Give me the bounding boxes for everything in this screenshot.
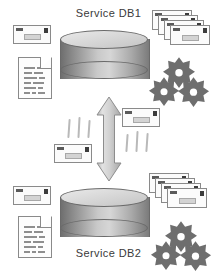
envelope-icon [13,186,51,205]
document-text-line [24,236,37,238]
envelope-bar [182,35,199,41]
document-fold-edge [40,216,52,228]
document-text-line [24,241,31,243]
envelope-icon [167,188,207,208]
diagram-canvas: Service DB1 Service DB2 [0,0,217,277]
document-text-line [38,87,43,89]
envelope-tab-left [16,189,23,192]
envelope-bar [65,153,82,159]
envelope-bar [179,198,196,204]
document-text-line [33,82,44,84]
envelope-bar [24,195,41,201]
double-arrow-icon [96,96,122,182]
document-text-line [32,251,36,253]
document-text-line [33,241,44,243]
tick-mark [145,133,148,152]
document-text-line [24,226,35,228]
document-text-line [37,226,40,228]
database-cylinder-db1 [60,30,148,90]
envelope-tab-left [16,28,23,31]
envelope-tab-left [57,147,64,150]
document-text-line [24,251,30,253]
tick-mark [135,131,138,152]
document-text-line [37,67,40,69]
document-icon [18,57,52,99]
document-text-line [24,77,37,79]
document-text-line [32,92,36,94]
document-fold-edge [40,57,52,69]
tick-mark [67,119,70,138]
envelope-tab-right [44,189,48,194]
document-text-line [38,246,43,248]
tick-mark [125,134,128,152]
tick-mark [77,117,80,138]
cylinder-bottom [60,61,148,79]
document-text-line [24,246,36,248]
envelope-tab-right [44,28,48,33]
envelope-bar [133,117,150,123]
envelope-tab-right [203,28,207,33]
gear-cluster-icon [150,220,217,272]
document-text-line [24,231,32,233]
document-text-line [34,72,43,74]
envelope-icon [13,25,51,44]
document-text-line [38,92,45,94]
document-text-line [24,72,32,74]
envelope-icon [170,25,210,45]
document-text-line [38,251,45,253]
document-text-line [39,77,45,79]
gear-icon [177,76,210,109]
document-text-line [39,236,45,238]
document-icon [18,216,52,258]
envelope-tab-left [125,111,132,114]
document-text-line [24,92,30,94]
cylinder-bottom [60,219,148,237]
envelope-icon [122,108,160,127]
cylinder-top [60,188,148,207]
envelope-stack-icon [149,173,211,215]
envelope-icon [54,144,92,163]
envelope-tab-left [173,28,180,31]
document-text-line [34,231,43,233]
document-text-line [24,87,36,89]
cylinder-top [60,30,148,49]
gear-icon [150,240,182,272]
gear-icon [179,240,212,273]
gear-icon [148,76,180,108]
envelope-tab-right [85,147,89,152]
envelope-tab-right [200,191,204,196]
envelope-tab-left [170,191,177,194]
tick-mark [87,120,90,138]
envelope-tab-right [153,111,157,116]
envelope-bar [24,34,41,40]
document-text-line [24,67,35,69]
database-cylinder-db2 [60,188,148,248]
envelope-stack-icon [152,10,214,52]
document-text-line [24,82,31,84]
gear-cluster-icon [148,56,216,108]
